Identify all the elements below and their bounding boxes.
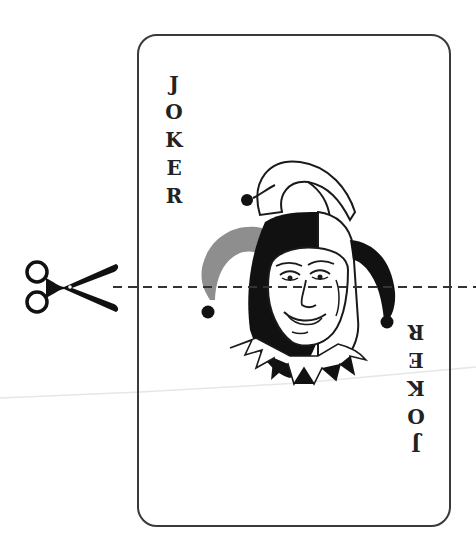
letter: R [166, 182, 183, 210]
card-label-top: J O K E R [162, 70, 186, 210]
letter: R [408, 318, 425, 346]
letter: J [169, 70, 178, 98]
letter: O [407, 402, 424, 430]
letter: J [411, 430, 420, 458]
scissors-icon [24, 256, 120, 318]
letter: K [165, 126, 182, 154]
letter: E [408, 346, 423, 374]
cut-guide-dashed-line [113, 286, 476, 288]
letter: O [165, 98, 182, 126]
letter: E [166, 154, 181, 182]
jester-face-icon [190, 150, 410, 390]
